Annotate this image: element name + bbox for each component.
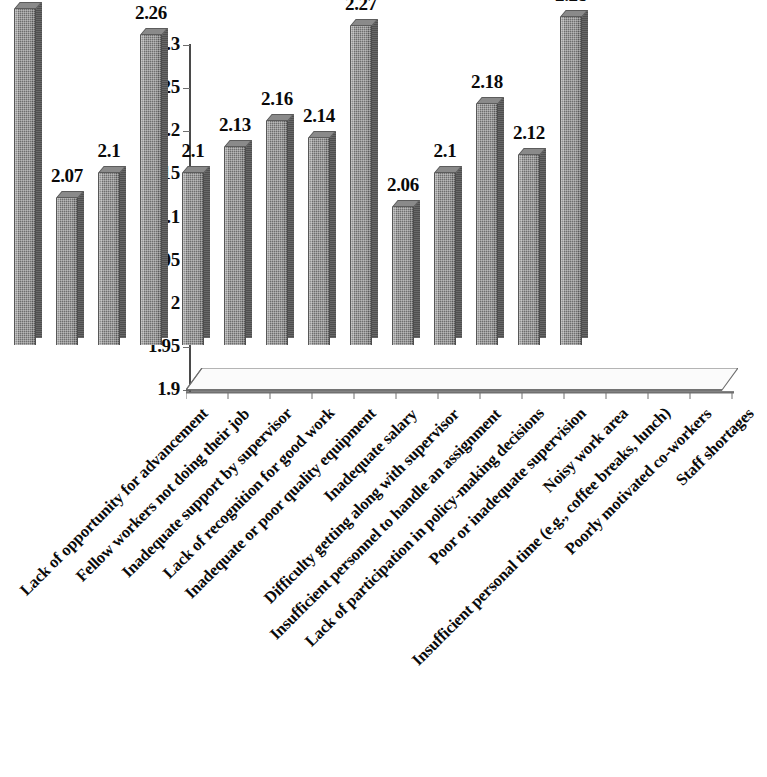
chart-floor-3d xyxy=(186,368,738,396)
bar-column xyxy=(434,0,462,345)
x-axis-category-label: Lack of opportunity for advancement xyxy=(16,404,212,600)
bar-value-label: 2.07 xyxy=(43,165,91,187)
bar-column xyxy=(392,0,420,345)
bar-column xyxy=(14,0,42,345)
y-axis-tick-label: 1.9 xyxy=(118,378,180,400)
bar-column xyxy=(98,0,126,345)
x-axis-category-label: Fellow workers not doing their job xyxy=(72,404,254,586)
bar-side-face xyxy=(78,191,84,338)
bar-column xyxy=(266,0,294,345)
bar-value-label: 2.18 xyxy=(463,71,511,93)
bar-front-face xyxy=(266,121,288,345)
x-axis-category-label: Inadequate salary xyxy=(320,404,422,506)
bar-column xyxy=(182,0,210,345)
bar-column xyxy=(518,0,546,345)
bar-value-label: 2.1 xyxy=(169,140,217,162)
bar-column xyxy=(476,0,504,345)
bar-value-label: 2.26 xyxy=(127,2,175,24)
x-axis-category-label: Inadequate support by supervisor xyxy=(118,404,297,583)
y-axis-tick xyxy=(183,347,190,348)
x-axis-category-label: Poorly motivated co-workers xyxy=(561,404,716,559)
x-axis-category-label: Lack of participation in policy-making d… xyxy=(301,404,549,652)
x-axis-rule xyxy=(186,390,738,404)
x-axis-category-label: Noisy work area xyxy=(539,404,632,497)
bar-column xyxy=(350,0,378,345)
bar-value-label: 2.14 xyxy=(295,105,343,127)
bar-side-face xyxy=(414,200,420,338)
bar-value-label: 2.13 xyxy=(211,114,259,136)
x-axis-category-label: Inadequate or poor quality equipment xyxy=(181,404,380,603)
bar-value-label: 2.12 xyxy=(505,122,553,144)
bar-side-face xyxy=(540,148,546,338)
bar-front-face xyxy=(224,147,246,345)
bar-front-face xyxy=(392,207,414,345)
x-axis-category-label: Lack of recognition for good work xyxy=(159,404,339,584)
bar-side-face xyxy=(204,166,210,339)
bar-side-face xyxy=(582,10,588,338)
bar-side-face xyxy=(162,28,168,339)
bar-front-face xyxy=(182,173,204,346)
x-axis-category-label: Insufficient personnel to handle an assi… xyxy=(266,404,505,643)
bar-front-face xyxy=(518,155,540,345)
bar-side-face xyxy=(330,131,336,338)
bar-side-face xyxy=(288,114,294,338)
bar-side-face xyxy=(372,19,378,338)
bar-front-face xyxy=(560,17,582,345)
bar-front-face xyxy=(98,173,120,346)
bar-value-label: 2.16 xyxy=(253,88,301,110)
bar-series: 2.292.072.12.262.12.132.162.142.272.062.… xyxy=(0,0,545,345)
y-axis-tick xyxy=(183,390,190,391)
x-axis-category-label: Difficulty getting along with supervisor xyxy=(260,404,464,608)
bar-side-face xyxy=(36,2,42,338)
x-axis-category-label: Poor or inadequate supervision xyxy=(425,404,590,569)
bar-front-face xyxy=(476,104,498,346)
bar-value-label: 2.28 xyxy=(547,0,595,6)
bar-value-label: 2.1 xyxy=(421,140,469,162)
bar-value-label: 2.06 xyxy=(379,174,427,196)
bar-front-face xyxy=(140,35,162,346)
bar-front-face xyxy=(56,198,78,345)
bar-column xyxy=(224,0,252,345)
bar-front-face xyxy=(308,138,330,345)
bar-value-label: 2.27 xyxy=(337,0,385,15)
bar-column xyxy=(560,0,588,345)
bar-chart: 1.91.9522.052.12.152.22.252.3 xyxy=(0,0,767,777)
bar-side-face xyxy=(120,166,126,339)
bar-front-face xyxy=(350,26,372,345)
bar-column xyxy=(140,0,168,345)
bar-value-label: 2.1 xyxy=(85,140,133,162)
bar-column xyxy=(308,0,336,345)
bar-front-face xyxy=(434,173,456,346)
bar-front-face xyxy=(14,9,36,345)
x-axis-category-label: Staff shortages xyxy=(672,404,758,490)
bar-side-face xyxy=(498,97,504,339)
x-axis-category-label: Insufficient personal time (e.g., coffee… xyxy=(408,404,675,671)
bar-side-face xyxy=(246,140,252,338)
bar-side-face xyxy=(456,166,462,339)
